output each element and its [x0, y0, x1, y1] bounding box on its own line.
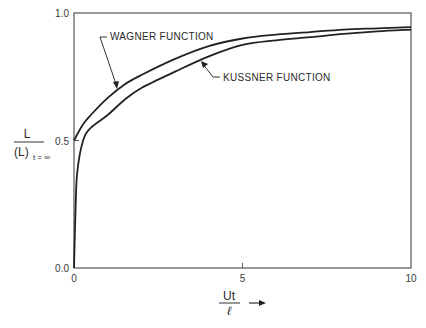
x-axis-ticks: 0510 — [71, 263, 417, 284]
y-label-denominator: (L) — [14, 145, 29, 159]
chart: 0510 0.00.51.0 WAGNER FUNCTION KUSSNER F… — [0, 0, 426, 328]
y-label-subscript: t = ∞ — [33, 153, 50, 162]
x-tick-label: 10 — [405, 273, 417, 284]
y-tick-label: 1.0 — [55, 8, 69, 19]
wagner-arrowhead-icon — [113, 81, 119, 89]
y-tick-label: 0.0 — [55, 263, 69, 274]
wagner-leader-line — [100, 37, 117, 87]
y-axis-label: L (L) t = ∞ — [14, 127, 50, 162]
x-tick-label: 0 — [71, 273, 77, 284]
kussner-function-curve — [74, 30, 411, 268]
x-label-denominator: ℓ — [227, 304, 232, 318]
kussner-annotation: KUSSNER FUNCTION — [201, 61, 331, 83]
kussner-label: KUSSNER FUNCTION — [223, 72, 331, 83]
plot-frame — [74, 13, 411, 268]
right-arrow-icon — [259, 300, 266, 306]
x-label-numerator: Ut — [223, 289, 236, 303]
series-curves — [74, 27, 411, 268]
x-axis-label: Ut ℓ — [219, 289, 266, 318]
wagner-label: WAGNER FUNCTION — [110, 31, 214, 42]
x-tick-label: 5 — [240, 273, 246, 284]
y-label-numerator: L — [24, 127, 31, 141]
y-tick-label: 0.5 — [55, 136, 69, 147]
